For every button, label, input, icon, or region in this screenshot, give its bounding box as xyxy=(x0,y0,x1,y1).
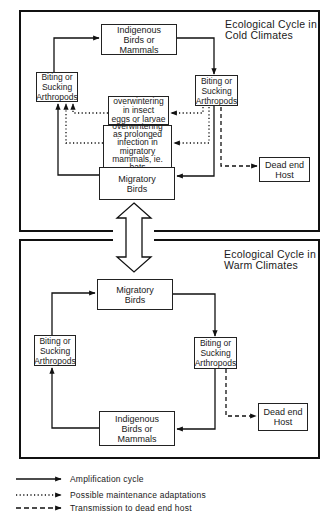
legend-lines xyxy=(16,479,61,508)
legend-item-maintenance: Possible maintenance adaptations xyxy=(62,490,206,500)
legend-label: Possible maintenance adaptations xyxy=(70,490,206,500)
cold-panel-frame xyxy=(20,11,319,231)
legend-label: Transmission to dead end host xyxy=(70,503,192,513)
legend-item-amplification: Amplification cycle xyxy=(62,474,144,484)
diagram-connectors xyxy=(0,0,332,528)
legend-label: Amplification cycle xyxy=(70,474,144,484)
legend-item-dead-end: Transmission to dead end host xyxy=(62,503,192,513)
warm-panel-frame xyxy=(20,240,319,458)
double-arrow-icon xyxy=(117,203,151,272)
